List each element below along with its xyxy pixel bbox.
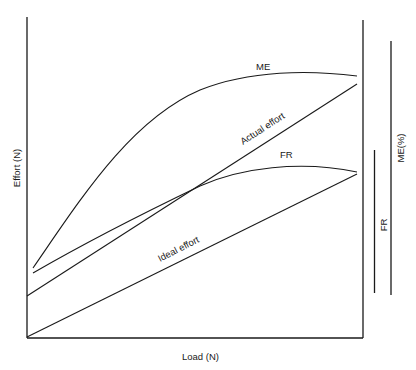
- x-axis-title: Load (N): [182, 351, 219, 362]
- y-axis-title: Effort (N): [11, 149, 22, 187]
- ideal-effort-line: [27, 174, 357, 337]
- fr-curve: [33, 166, 357, 273]
- fr-curve-label: FR: [280, 149, 293, 160]
- me-curve-label: ME: [256, 61, 270, 72]
- actual-effort-label: Actual effort: [238, 110, 287, 147]
- chart: ME FR Actual effort Ideal effort Effort …: [0, 0, 416, 370]
- me-scale-label: ME(%): [395, 133, 406, 162]
- fr-scale-label: FR: [378, 219, 389, 232]
- ideal-effort-label: Ideal effort: [156, 234, 201, 264]
